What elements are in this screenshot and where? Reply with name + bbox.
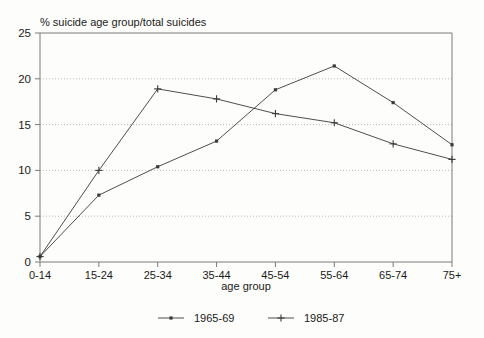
y-tick-label: 20 — [18, 73, 31, 85]
chart-figure: 0510152025 0-1415-2425-3435-4445-5455-64… — [0, 0, 484, 338]
data-point-25-34 — [156, 165, 159, 168]
y-axis-label: % suicide age group/total suicides — [40, 16, 207, 28]
y-tick-label: 5 — [25, 210, 31, 222]
x-axis-title: age group — [221, 280, 271, 292]
x-tick-label: 25-34 — [144, 269, 172, 281]
data-point-75+ — [450, 143, 453, 146]
y-tick-label: 15 — [18, 119, 31, 131]
y-tick-label: 25 — [18, 27, 31, 39]
data-point-55-64 — [333, 64, 336, 67]
line-chart: 0510152025 0-1415-2425-3435-4445-5455-64… — [0, 0, 484, 338]
data-point-35-44 — [215, 139, 218, 142]
x-tick-label: 0-14 — [29, 269, 51, 281]
legend-marker-dot — [169, 316, 172, 319]
legend-label: 1965-69 — [194, 312, 234, 324]
data-point-15-24 — [97, 194, 100, 197]
y-tick-label: 0 — [25, 256, 31, 268]
x-tick-label: 55-64 — [320, 269, 348, 281]
data-point-65-74 — [392, 101, 395, 104]
x-tick-label: 65-74 — [379, 269, 407, 281]
x-tick-label: 15-24 — [85, 269, 113, 281]
legend-label: 1985-87 — [304, 312, 344, 324]
data-point-45-54 — [274, 88, 277, 91]
y-tick-label: 10 — [18, 164, 31, 176]
x-tick-label: 75+ — [443, 269, 462, 281]
